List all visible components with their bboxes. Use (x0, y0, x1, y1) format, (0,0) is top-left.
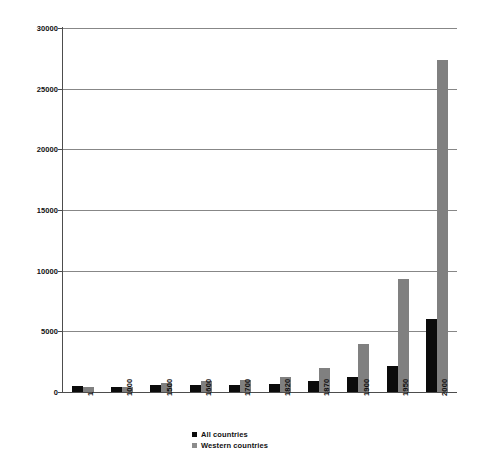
y-tick-label: 10000 (2, 267, 58, 276)
bar-group (378, 28, 417, 392)
legend-item[interactable]: Western countries (192, 441, 288, 450)
bar (229, 385, 240, 392)
bar-group (221, 28, 260, 392)
x-tick-label: 1 (86, 392, 95, 396)
bar (150, 385, 161, 392)
bar-chart: 050001000015000200002500030000 110001500… (0, 0, 480, 471)
bar-group (418, 28, 457, 392)
bar (308, 381, 319, 392)
bar (269, 384, 280, 392)
bar (72, 386, 83, 392)
bar-group (63, 28, 102, 392)
x-tick-label: 1700 (243, 379, 252, 397)
legend-swatch-icon (192, 443, 197, 448)
legend-label: All countries (201, 430, 248, 439)
x-tick-label: 1870 (322, 379, 331, 397)
y-tick-label: 25000 (2, 85, 58, 94)
plot-area (63, 28, 457, 392)
bar-group (142, 28, 181, 392)
gridline-0 (63, 392, 457, 393)
bar (347, 377, 358, 392)
bar (387, 366, 398, 392)
bar-group (102, 28, 141, 392)
x-tick-label: 1600 (204, 379, 213, 397)
bar (437, 60, 448, 392)
x-tick-label: 1820 (283, 379, 292, 397)
bar-group (339, 28, 378, 392)
y-tick-label: 15000 (2, 206, 58, 215)
y-tick-label: 0 (2, 388, 58, 397)
legend-item[interactable]: All countries (192, 430, 288, 439)
legend-swatch-icon (192, 432, 197, 437)
x-tick-label: 1500 (165, 379, 174, 397)
y-tick-label: 20000 (2, 145, 58, 154)
bar (398, 279, 409, 392)
bar (111, 387, 122, 392)
bar-group (181, 28, 220, 392)
x-tick-label: 1900 (362, 379, 371, 397)
x-tick-label: 1000 (125, 379, 134, 397)
y-tick-label: 5000 (2, 327, 58, 336)
bar (426, 319, 437, 392)
bar-group (260, 28, 299, 392)
y-tick-label: 30000 (2, 24, 58, 33)
chart-legend: All countriesWestern countries (0, 430, 480, 450)
x-tick-label: 2000 (440, 379, 449, 397)
legend-label: Western countries (201, 441, 268, 450)
bar (190, 385, 201, 392)
x-tick-label: 1950 (401, 379, 410, 397)
bar-group (299, 28, 338, 392)
